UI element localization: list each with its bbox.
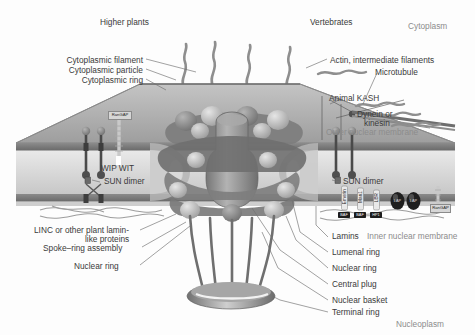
label-man1: Man1 xyxy=(358,191,363,203)
label-terminal-ring: Terminal ring xyxy=(332,308,380,318)
tag-rangap-right: RanGAP xyxy=(430,204,451,213)
label-cytoplasmic-ring: Cytoplasmic ring xyxy=(23,76,143,86)
header-vertebrates: Vertebrates xyxy=(310,18,352,28)
label-emerin: Emerin xyxy=(342,189,347,204)
label-nuclear-ring-right: Nuclear ring xyxy=(332,264,377,274)
label-actin-intermediate-filaments: Actin, intermediate filaments xyxy=(330,56,434,66)
label-lbr: LBR xyxy=(374,193,379,202)
label-outer-nuclear-membrane: Outer nuclear membrane xyxy=(326,128,418,138)
tag-baf-1: BAF xyxy=(338,212,350,218)
label-lumenal-ring: Lumenal ring xyxy=(332,248,380,258)
figure-canvas: Higher plants Vertebrates Cytoplasm Nucl… xyxy=(0,0,475,335)
tag-baf-2: BAF xyxy=(354,212,366,218)
label-sun-dimer-right: SUN dimer xyxy=(343,177,384,187)
label-spoke-ring-assembly: Spoke–ring assembly xyxy=(43,244,122,254)
label-lamins: Lamins xyxy=(332,232,359,242)
label-animal-kash: Animal KASH xyxy=(329,94,379,104)
header-higher-plants: Higher plants xyxy=(100,18,149,28)
label-nuclear-basket: Nuclear basket xyxy=(332,296,387,306)
label-sun-dimer-left: SUN dimer xyxy=(104,177,145,187)
label-central-plug: Central plug xyxy=(332,280,377,290)
label-nuclear-ring-left: Nuclear ring xyxy=(74,262,119,272)
label-microtubule: Microtubule xyxy=(375,68,418,78)
header-cytoplasm: Cytoplasm xyxy=(408,22,447,32)
label-inner-nuclear-membrane: Inner nuclear membrane xyxy=(367,232,457,242)
plant-lamin-like-network xyxy=(40,206,164,218)
diagram-artwork xyxy=(0,0,475,335)
tag-hp1: HP1 xyxy=(370,212,382,218)
tag-lap-1: LAP xyxy=(392,198,404,204)
header-nucleoplasm: Nucleoplasm xyxy=(396,320,444,330)
terminal-ring xyxy=(187,282,275,309)
tag-lap-2: LAP xyxy=(408,198,420,204)
label-wip-wit: WIP WIT xyxy=(101,164,134,174)
nuclear-basket-filaments xyxy=(190,216,274,290)
tag-rangap-left: RanGAP xyxy=(108,111,132,120)
